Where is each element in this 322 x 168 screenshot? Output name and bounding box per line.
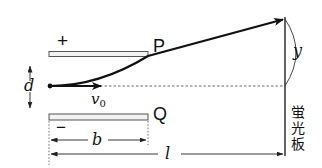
bottom-plate-label: Q [153,104,167,124]
initial-velocity-label: v0 [91,90,106,109]
top-plate-label: P [153,36,165,56]
gap-label: d [24,76,34,95]
screen-distance-label: l [165,144,170,163]
start-point [48,84,53,89]
deflection-diagram: + − P Q d v0 b l y 蛍 光 板 [0,0,322,168]
screen-label-char-2: 光 [291,120,305,136]
top-plate-charge-sign: + [57,30,68,51]
top-plate [49,52,148,57]
screen-label-char-3: 板 [291,136,305,152]
initial-velocity-subscript: 0 [99,98,105,109]
screen-label-char-1: 蛍 [291,104,305,120]
bottom-plate-charge-sign: − [56,118,66,137]
plate-length-label: b [92,130,102,149]
deflection-label: y [292,41,303,60]
